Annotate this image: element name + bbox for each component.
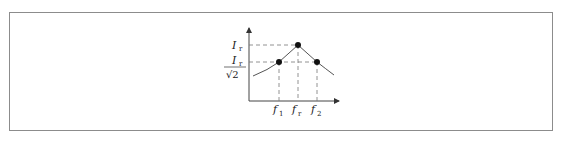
svg-text:f: f (291, 103, 298, 116)
svg-text:f: f (272, 103, 279, 116)
f1-point (276, 59, 282, 65)
svg-text:f: f (310, 103, 317, 116)
svg-text:√2: √2 (226, 69, 239, 80)
svg-text:I: I (231, 54, 237, 67)
svg-text:1: 1 (279, 110, 283, 118)
svg-text:I: I (231, 39, 237, 52)
svg-text:2: 2 (317, 110, 321, 118)
resonance-diagram: I r I r √2 f 1 f r f 2 (0, 0, 562, 142)
resonance-curve (253, 45, 334, 76)
label-ir: I r (231, 39, 243, 53)
label-fr: f r (291, 103, 302, 118)
label-f2: f 2 (310, 103, 321, 118)
svg-text:r: r (298, 110, 302, 118)
f2-point (314, 59, 320, 65)
label-f1: f 1 (272, 103, 283, 118)
label-ir-over-sqrt2: I r √2 (224, 54, 246, 80)
svg-text:r: r (239, 45, 243, 53)
fr-peak-point (295, 42, 301, 48)
